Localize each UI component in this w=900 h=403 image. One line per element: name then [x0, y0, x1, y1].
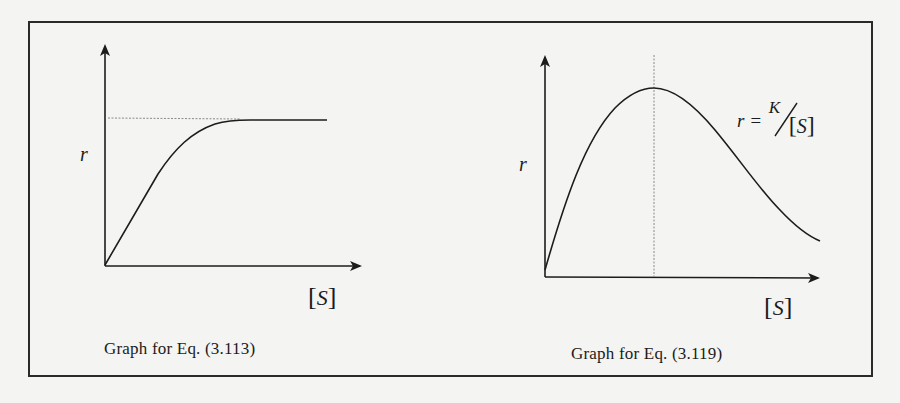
bracket-close: ] [807, 112, 815, 138]
variable-s: S [773, 295, 784, 320]
formula-fraction: K [S] [767, 108, 829, 138]
left-y-axis-label: r [80, 143, 88, 166]
right-x-axis [545, 277, 818, 278]
right-y-axis-label: r [519, 153, 527, 176]
left-graph [105, 46, 360, 266]
variable-s: S [797, 115, 807, 137]
formula-lhs: r = [737, 110, 762, 131]
substrate-inhibition-formula: r = K [S] [737, 108, 829, 138]
bracket-open: [ [764, 292, 773, 321]
bracket-open: [ [789, 112, 797, 138]
right-caption: Graph for Eq. (3.119) [571, 344, 722, 364]
left-x-axis-label: [S] [308, 282, 336, 312]
bracket-close: ] [784, 292, 793, 321]
left-plateau-guide [108, 118, 240, 119]
right-x-axis-label: [S] [764, 292, 792, 322]
bracket-close: ] [328, 282, 337, 311]
variable-s: S [317, 285, 328, 310]
formula-denominator: [S] [789, 112, 815, 139]
left-caption: Graph for Eq. (3.113) [104, 339, 255, 359]
bracket-open: [ [308, 282, 317, 311]
left-saturation-curve [105, 120, 327, 265]
right-graph [545, 55, 820, 278]
